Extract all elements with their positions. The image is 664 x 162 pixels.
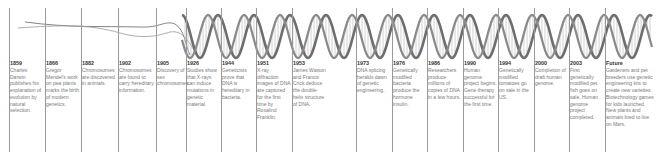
event-year: 1953 — [293, 60, 327, 67]
event-description: X-ray diffraction images of DNA are capt… — [257, 67, 291, 121]
event-year: 1951 — [257, 60, 291, 67]
timeline-event-1994: 1994 Genetically modified tomatoes go on… — [499, 60, 533, 101]
timeline-event-1976: 1976 Genetically modified bacteria produ… — [393, 60, 426, 107]
timeline-event-future: Future Gardeners and pet breeders use ge… — [606, 60, 656, 127]
timeline-event-1944: 1944 Geneticists prove that DNA is hered… — [222, 60, 255, 101]
event-description: Completion of draft human genome. — [535, 67, 568, 87]
event-description: Discovery of sex chromosomes. — [157, 67, 185, 87]
timeline-event-1973: 1973 DNA splicing heralds dawn of geneti… — [357, 60, 391, 94]
event-description: Chromosomes are discovered in animals. — [82, 67, 118, 87]
event-year: 1882 — [82, 60, 118, 67]
event-description: James Watson and Francis Crick deduce th… — [293, 67, 327, 107]
timeline-event-1866: 1866 Gregor Mendel's work on pea plants … — [46, 60, 80, 107]
event-year: 1990 — [464, 60, 497, 67]
event-description: Gardeners and pet breeders use genetic e… — [606, 67, 656, 127]
timeline-event-1926: 1926 Studies show that X-rays can induce… — [187, 60, 220, 107]
event-year: 1859 — [10, 60, 44, 67]
event-year: Future — [606, 60, 656, 67]
event-description: Researchers produce millions of copies o… — [428, 67, 462, 101]
event-year: 1994 — [499, 60, 533, 67]
event-description: Charles Darwin publishes his explanation… — [10, 67, 44, 114]
timeline-event-1882: 1882 Chromosomes are discovered in anima… — [82, 60, 118, 87]
timeline-event-1905: 1905 Discovery of sex chromosomes. — [157, 60, 185, 87]
event-description: Gregor Mendel's work on pea plants marks… — [46, 67, 80, 107]
event-description: DNA splicing heralds dawn of genetic eng… — [357, 67, 391, 94]
event-description: Studies show that X-rays can induce muta… — [187, 67, 220, 107]
event-description: Genetically modified tomatoes go on sale… — [499, 67, 533, 101]
event-year: 1944 — [222, 60, 255, 67]
timeline-event-1951: 1951 X-ray diffraction images of DNA are… — [257, 60, 291, 121]
event-year: 2003 — [570, 60, 604, 67]
timeline-event-1859: 1859 Charles Darwin publishes his explan… — [10, 60, 44, 114]
event-year: 1926 — [187, 60, 220, 67]
event-description: Chromosomes are found to carry hereditar… — [119, 67, 155, 94]
event-year: 1986 — [428, 60, 462, 67]
timeline-event-1902: 1902 Chromosomes are found to carry here… — [119, 60, 155, 94]
event-year: 1866 — [46, 60, 80, 67]
event-description: Geneticists prove that DNA is hereditary… — [222, 67, 255, 101]
event-description: Genetically modified bacteria produce th… — [393, 67, 426, 107]
timeline-event-2003: 2003 First genetically modified pet fish… — [570, 60, 604, 121]
event-description: First genetically modified pet fish goes… — [570, 67, 604, 121]
timeline-event-2000: 2000 Completion of draft human genome. — [535, 60, 568, 87]
event-year: 2000 — [535, 60, 568, 67]
timeline-event-1990: 1990 Human genome project begins. Gene t… — [464, 60, 497, 107]
timeline-event-1986: 1986 Researchers produce millions of cop… — [428, 60, 462, 101]
event-year: 1902 — [119, 60, 155, 67]
event-year: 1973 — [357, 60, 391, 67]
event-year: 1905 — [157, 60, 185, 67]
genetics-timeline: 1859 Charles Darwin publishes his explan… — [0, 0, 664, 162]
event-description: Human genome project begins. Gene therap… — [464, 67, 497, 107]
timeline-event-1953: 1953 James Watson and Francis Crick dedu… — [293, 60, 327, 107]
event-year: 1976 — [393, 60, 426, 67]
